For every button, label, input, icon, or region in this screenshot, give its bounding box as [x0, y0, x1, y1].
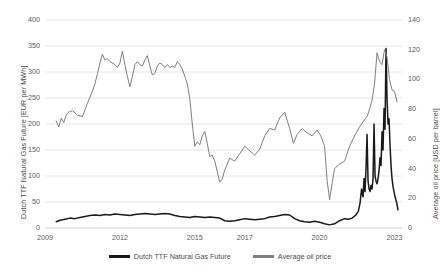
series-line-1 — [56, 49, 398, 225]
legend-label: Dutch TTF Natural Gas Future — [134, 252, 231, 261]
chart-container: Dutch TTF Natural Gas Future [EUR per MW… — [0, 0, 440, 275]
plot-area — [0, 0, 440, 275]
chart-legend: Dutch TTF Natural Gas FutureAverage oil … — [0, 252, 440, 261]
legend-label: Average oil price — [278, 252, 331, 261]
legend-item-2: Average oil price — [253, 252, 331, 261]
legend-swatch-icon — [253, 255, 274, 257]
series-lines — [56, 49, 398, 225]
gridlines — [45, 20, 402, 228]
legend-swatch-icon — [109, 255, 130, 258]
legend-item-1: Dutch TTF Natural Gas Future — [109, 252, 231, 261]
